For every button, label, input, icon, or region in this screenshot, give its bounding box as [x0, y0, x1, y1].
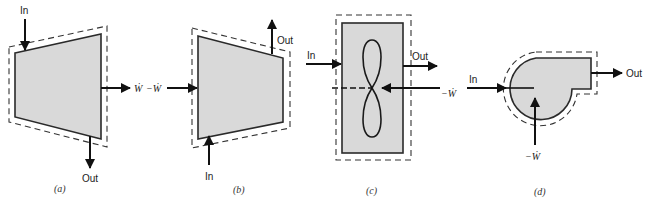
caption-b: (b) — [233, 184, 245, 196]
panel-a: In Out Ẇ (a) — [9, 5, 144, 195]
compressor-body — [198, 36, 283, 139]
panel-c: In Out −Ẇ (c) — [306, 15, 458, 197]
caption-c: (c) — [366, 185, 378, 197]
label-work-c: −Ẇ — [441, 88, 458, 99]
control-volume-diagram: In Out Ẇ (a) −Ẇ In Out (b) In Out −Ẇ … — [0, 0, 650, 201]
label-out-c: Out — [412, 51, 428, 62]
label-work-a: Ẇ — [134, 83, 144, 94]
caption-d: (d) — [534, 186, 546, 198]
label-in-b: In — [205, 171, 213, 182]
caption-a: (a) — [54, 183, 66, 195]
label-out-a: Out — [82, 173, 98, 184]
label-in-c: In — [307, 50, 315, 61]
label-work-b: −Ẇ — [146, 83, 163, 94]
label-work-d: −Ẇ — [525, 151, 542, 162]
turbine-body — [15, 34, 101, 139]
panel-d: In Out −Ẇ (d) — [467, 52, 642, 198]
panel-b: −Ẇ In Out (b) — [146, 20, 293, 196]
label-out-b: Out — [277, 35, 293, 46]
label-out-d: Out — [626, 68, 642, 79]
label-in-d: In — [469, 74, 477, 85]
label-in-a: In — [20, 5, 28, 16]
